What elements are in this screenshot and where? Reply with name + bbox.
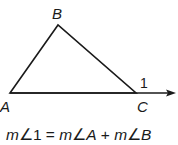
equation-angle-sym-a: ∠	[72, 126, 86, 143]
triangle-diagram: A B C 1 m∠1 = m∠A + m∠B	[0, 0, 178, 145]
equation-b: B	[141, 126, 151, 143]
equation-angle-sym-b: ∠	[127, 126, 141, 143]
equation-m3: m	[114, 126, 127, 143]
vertex-label-c: C	[137, 98, 148, 115]
equation-m2: m	[59, 126, 72, 143]
vertex-label-b: B	[52, 5, 62, 22]
equation: m∠1 = m∠A + m∠B	[6, 126, 151, 143]
triangle-abc	[10, 25, 136, 93]
vertex-label-a: A	[0, 98, 10, 115]
equation-angle1: ∠1 =	[19, 126, 59, 143]
equation-m1: m	[6, 126, 19, 143]
exterior-angle-label: 1	[140, 75, 148, 91]
equation-plus: +	[96, 126, 114, 143]
equation-a: A	[85, 126, 96, 143]
